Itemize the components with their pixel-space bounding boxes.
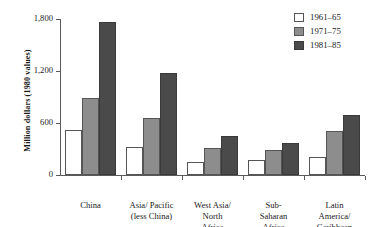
legend-label: 1961–65 [310,13,341,22]
y-tick-label: 1,800 [0,14,53,23]
bar [282,143,299,176]
x-tick-mark [182,176,183,180]
bar [187,162,204,175]
category-label: Latin America/ Caribbean [291,200,373,227]
y-tick-mark [56,71,61,72]
y-tick-mark [56,123,61,124]
y-tick-label: 1,200 [0,66,53,75]
legend-item: 1971–75 [294,25,341,38]
bar [326,131,343,175]
y-tick-mark [56,19,61,20]
x-tick-mark [121,176,122,180]
bar [82,98,99,175]
y-tick-label: 0 [0,170,53,179]
bar [204,148,221,175]
legend: 1961–651971–751981–85 [294,11,341,53]
bar [99,22,116,175]
bar [343,115,360,175]
bar [248,160,265,175]
y-axis-title: Million dollars (1980 values) [23,26,32,176]
x-axis-line [60,175,365,176]
bar [221,136,238,175]
y-axis-line [60,19,61,175]
bar [309,157,326,175]
bar [126,147,143,175]
legend-item: 1981–85 [294,39,341,52]
legend-swatch [294,41,304,50]
x-tick-mark [304,176,305,180]
legend-label: 1971–75 [310,27,341,36]
y-tick-mark [56,175,61,176]
bar-chart-figure: Million dollars (1980 values) 06001,2001… [0,0,373,227]
bar [143,118,160,175]
bar [65,130,82,175]
x-tick-mark [365,176,366,180]
bar [160,73,177,175]
legend-swatch [294,27,304,36]
legend-label: 1981–85 [310,41,341,50]
legend-item: 1961–65 [294,11,341,24]
y-tick-label: 600 [0,118,53,127]
x-tick-mark [243,176,244,180]
bar [265,150,282,175]
legend-swatch [294,13,304,22]
